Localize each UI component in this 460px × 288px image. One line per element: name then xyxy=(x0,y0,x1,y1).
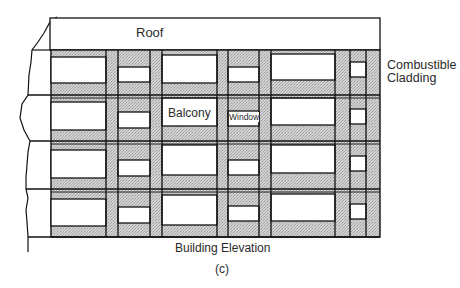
roof xyxy=(50,18,380,50)
window-label: Window xyxy=(229,112,259,122)
balcony-label: Balcony xyxy=(168,106,211,120)
diagram-title: Building Elevation xyxy=(175,241,270,255)
cladding-label: Combustible Cladding xyxy=(387,59,456,85)
roof-label: Roof xyxy=(136,25,163,40)
figure-caption: (c) xyxy=(215,262,229,276)
cladding-label-line2: Cladding xyxy=(387,72,456,85)
